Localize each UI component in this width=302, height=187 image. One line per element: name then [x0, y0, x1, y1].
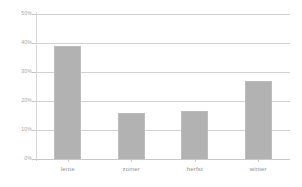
- y-axis-tick-label: 20%: [2, 99, 32, 104]
- y-axis-tick-label: 0%: [2, 156, 32, 161]
- x-axis-tick: [68, 159, 69, 162]
- y-axis-tick-label: 50%: [2, 12, 32, 17]
- x-axis-label-lente: lente: [61, 166, 75, 172]
- bar-chart: 0%10%20%30%40%50% lentezomerherfstwinter: [0, 0, 302, 187]
- x-axis-label-zomer: zomer: [123, 166, 140, 172]
- bars-layer: [36, 0, 290, 159]
- bar-lente: [54, 46, 81, 159]
- x-axis-labels: lentezomerherfstwinter: [36, 166, 290, 180]
- x-axis-line: [36, 159, 290, 160]
- x-axis-tick: [195, 159, 196, 162]
- x-axis-label-herfst: herfst: [187, 166, 203, 172]
- y-axis-tick-label: 40%: [2, 41, 32, 46]
- x-axis-label-winter: winter: [250, 166, 267, 172]
- y-axis-tick-label: 10%: [2, 127, 32, 132]
- bar-zomer: [118, 113, 145, 159]
- x-axis-tick: [131, 159, 132, 162]
- bar-winter: [245, 81, 272, 159]
- bar-herfst: [181, 111, 208, 159]
- x-axis-tick: [258, 159, 259, 162]
- y-axis-labels: 0%10%20%30%40%50%: [0, 0, 32, 187]
- y-axis-tick-label: 30%: [2, 70, 32, 75]
